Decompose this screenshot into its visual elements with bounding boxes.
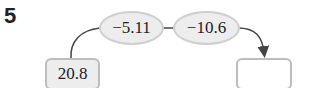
arrow-op2-to-result [238, 28, 264, 52]
start-value: 20.8 [58, 64, 88, 84]
operation-oval-2: −10.6 [173, 11, 240, 45]
operation-oval-1: −5.11 [99, 11, 164, 45]
connector-start-to-op1 [71, 28, 100, 58]
operation-2-label: −10.6 [187, 18, 226, 38]
answer-box[interactable] [236, 58, 292, 88]
operation-1-label: −5.11 [112, 18, 151, 38]
start-value-box: 20.8 [45, 58, 100, 88]
